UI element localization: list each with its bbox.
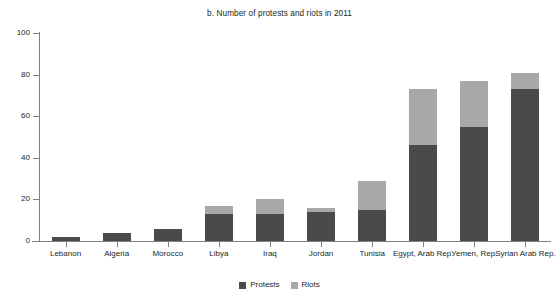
bar-group[interactable] (511, 73, 539, 241)
y-axis-tick-label: 100 (4, 29, 30, 37)
y-axis-tick-label: 60 (4, 112, 30, 120)
bar-segment-protests[interactable] (154, 229, 182, 241)
bar-group[interactable] (256, 199, 284, 241)
x-axis-tick (270, 242, 271, 247)
plot-area (40, 33, 551, 241)
bar-segment-protests[interactable] (307, 212, 335, 241)
bar-segment-protests[interactable] (358, 210, 386, 241)
bar-segment-protests[interactable] (52, 237, 80, 241)
legend-item[interactable]: Protests (239, 281, 279, 289)
y-axis-tick (33, 199, 39, 200)
x-axis-tick (474, 242, 475, 247)
x-axis-tick (219, 242, 220, 247)
bar-segment-protests[interactable] (103, 233, 131, 241)
y-axis-tick (33, 241, 39, 242)
y-axis-tick (33, 116, 39, 117)
x-axis-category-label: Syrian Arab Rep. (494, 249, 556, 259)
bar-segment-protests[interactable] (256, 214, 284, 241)
bar-segment-riots[interactable] (358, 181, 386, 210)
bar-group[interactable] (409, 89, 437, 241)
bar-group[interactable] (460, 81, 488, 241)
bar-segment-protests[interactable] (205, 214, 233, 241)
x-axis-tick (168, 242, 169, 247)
bar-segment-protests[interactable] (511, 89, 539, 241)
chart-figure: b. Number of protests and riots in 2011 … (0, 0, 559, 305)
legend-swatch-icon (239, 282, 246, 289)
bar-group[interactable] (103, 233, 131, 241)
bar-group[interactable] (307, 208, 335, 241)
legend-swatch-icon (291, 282, 298, 289)
x-axis-tick (66, 242, 67, 247)
y-axis-tick-label: 80 (4, 71, 30, 79)
bar-segment-riots[interactable] (511, 73, 539, 90)
y-axis-tick (33, 75, 39, 76)
bar-segment-riots[interactable] (256, 199, 284, 214)
legend-label: Protests (250, 281, 279, 289)
y-axis-tick-label: 20 (4, 195, 30, 203)
x-axis-tick (321, 242, 322, 247)
bar-segment-protests[interactable] (460, 127, 488, 241)
bar-segment-protests[interactable] (409, 145, 437, 241)
x-axis-tick (525, 242, 526, 247)
bar-group[interactable] (154, 229, 182, 241)
bar-segment-riots[interactable] (307, 208, 335, 212)
bar-group[interactable] (205, 206, 233, 241)
chart-legend: ProtestsRiots (0, 281, 559, 289)
bar-group[interactable] (52, 237, 80, 241)
y-axis-tick (33, 33, 39, 34)
bar-segment-riots[interactable] (205, 206, 233, 214)
legend-item[interactable]: Riots (291, 281, 320, 289)
x-axis-tick (372, 242, 373, 247)
x-axis-tick (117, 242, 118, 247)
legend-label: Riots (302, 281, 320, 289)
y-axis-labels: 020406080100 (0, 0, 30, 305)
y-axis-tick-label: 0 (4, 237, 30, 245)
y-axis-tick (33, 158, 39, 159)
chart-title: b. Number of protests and riots in 2011 (0, 9, 559, 18)
bar-segment-riots[interactable] (460, 81, 488, 127)
y-axis-tick-label: 40 (4, 154, 30, 162)
bar-group[interactable] (358, 181, 386, 241)
x-axis-tick (423, 242, 424, 247)
bar-segment-riots[interactable] (409, 89, 437, 145)
